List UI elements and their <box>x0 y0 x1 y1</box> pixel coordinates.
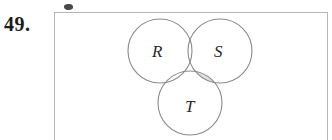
figure-frame <box>54 12 328 140</box>
scan-smudge-mark <box>64 3 74 10</box>
page-canvas: 49. R S T <box>0 0 332 140</box>
problem-number-label: 49. <box>4 13 31 35</box>
